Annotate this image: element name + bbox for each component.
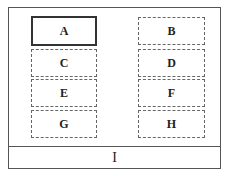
box-g[interactable]: G [31,110,97,138]
box-d[interactable]: D [138,49,205,77]
box-h[interactable]: H [138,110,205,138]
box-b[interactable]: B [138,17,205,45]
footer-cell[interactable]: I [8,147,221,169]
box-a[interactable]: A [31,16,97,46]
box-g-label: G [59,117,68,132]
box-e-label: E [60,86,68,101]
box-c-label: C [60,56,69,71]
box-a-label: A [60,24,69,39]
box-h-label: H [167,117,176,132]
box-f-label: F [168,86,175,101]
footer-label: I [112,150,117,166]
box-d-label: D [167,56,176,71]
box-b-label: B [167,24,175,39]
box-c[interactable]: C [31,49,97,77]
box-e[interactable]: E [31,79,97,107]
box-f[interactable]: F [138,79,205,107]
